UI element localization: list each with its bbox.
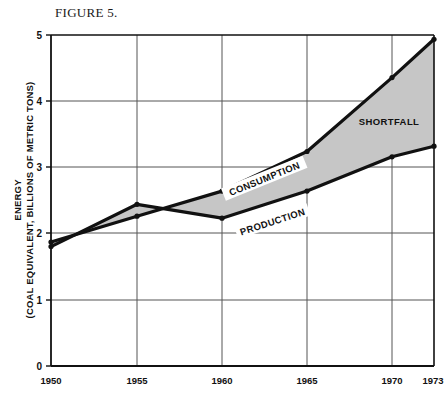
figure-page: FIGURE 5. — [0, 0, 447, 407]
data-point — [134, 214, 139, 219]
y-axis-tick-labels: 5 4 3 2 1 0 — [36, 30, 42, 372]
energy-shortfall-chart: 5 4 3 2 1 0 1950 1955 1960 1965 1970 197… — [0, 0, 447, 407]
ytick-label-0: 0 — [36, 361, 42, 372]
data-point — [304, 189, 309, 194]
y-axis-subtitle: (COAL EQUIVALENT, BILLIONS OF METRIC TON… — [24, 82, 35, 319]
xtick-label-1970: 1970 — [381, 375, 402, 386]
ytick-label-5: 5 — [36, 30, 42, 41]
shortfall-annotation-label: SHORTFALL — [359, 116, 420, 127]
xtick-label-1950: 1950 — [40, 375, 61, 386]
data-point — [389, 154, 394, 159]
xtick-label-1960: 1960 — [211, 375, 232, 386]
xtick-label-1955: 1955 — [126, 375, 148, 386]
xtick-label-1973: 1973 — [422, 375, 443, 386]
data-point — [219, 216, 224, 221]
data-point — [304, 149, 309, 154]
xtick-label-1965: 1965 — [296, 375, 318, 386]
ytick-label-2: 2 — [36, 228, 42, 239]
y-axis-title: ENERGY — [12, 179, 23, 221]
ytick-label-4: 4 — [36, 96, 42, 107]
ytick-label-3: 3 — [36, 162, 42, 173]
data-point — [134, 202, 139, 207]
x-axis-tick-labels: 1950 1955 1960 1965 1970 1973 — [40, 375, 443, 386]
data-point — [389, 75, 394, 80]
ytick-label-1: 1 — [36, 295, 42, 306]
